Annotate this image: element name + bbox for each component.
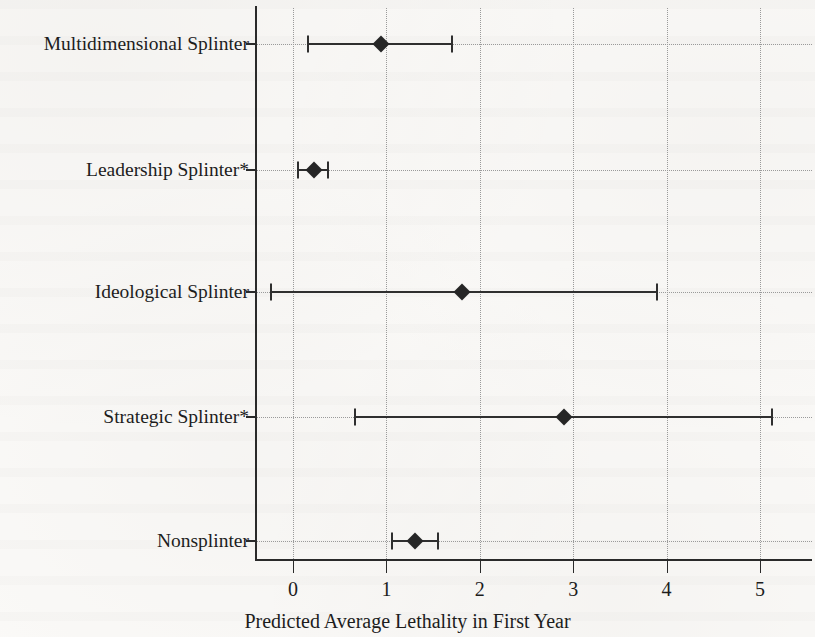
category-label-4: Nonsplinter xyxy=(157,531,249,551)
dot-whisker-plot xyxy=(0,0,815,637)
category-label-0: Multidimensional Splinter xyxy=(44,34,249,54)
confidence-interval-cap-high-3 xyxy=(771,409,773,426)
category-label-3: Strategic Splinter* xyxy=(103,407,249,427)
x-tick-mark-4 xyxy=(667,561,668,573)
confidence-interval-cap-low-2 xyxy=(270,284,272,301)
gridline-vertical-4 xyxy=(667,8,668,559)
point-marker-3 xyxy=(555,409,572,426)
x-tick-label-1: 1 xyxy=(381,579,391,599)
x-tick-label-5: 5 xyxy=(755,579,765,599)
gridline-vertical-2 xyxy=(480,8,481,559)
confidence-interval-cap-high-1 xyxy=(327,162,329,179)
confidence-interval-cap-high-0 xyxy=(451,36,453,53)
category-label-1: Leadership Splinter* xyxy=(86,160,249,180)
gridline-horizontal-4 xyxy=(255,541,812,542)
x-tick-mark-0 xyxy=(293,561,294,573)
gridline-vertical-0 xyxy=(293,8,294,559)
point-marker-1 xyxy=(305,162,322,179)
category-label-2: Ideological Splinter xyxy=(95,282,249,302)
x-tick-label-2: 2 xyxy=(475,579,485,599)
x-tick-label-3: 3 xyxy=(568,579,578,599)
x-tick-label-0: 0 xyxy=(288,579,298,599)
confidence-interval-cap-low-4 xyxy=(391,533,393,550)
confidence-interval-cap-high-2 xyxy=(656,284,658,301)
confidence-interval-cap-low-0 xyxy=(307,36,309,53)
x-tick-mark-5 xyxy=(760,561,761,573)
point-marker-4 xyxy=(407,533,424,550)
point-marker-2 xyxy=(454,284,471,301)
gridline-vertical-3 xyxy=(573,8,574,559)
x-tick-mark-1 xyxy=(386,561,387,573)
confidence-interval-cap-low-1 xyxy=(297,162,299,179)
x-tick-label-4: 4 xyxy=(662,579,672,599)
confidence-interval-cap-high-4 xyxy=(437,533,439,550)
gridline-horizontal-1 xyxy=(255,170,812,171)
y-axis-line xyxy=(255,6,257,559)
x-tick-mark-2 xyxy=(480,561,481,573)
x-axis-line xyxy=(255,559,812,561)
x-tick-mark-3 xyxy=(573,561,574,573)
gridline-vertical-5 xyxy=(760,8,761,559)
gridline-vertical-1 xyxy=(386,8,387,559)
x-axis-title: Predicted Average Lethality in First Yea… xyxy=(0,611,815,631)
confidence-interval-cap-low-3 xyxy=(354,409,356,426)
chart-page: Multidimensional Splinter Leadership Spl… xyxy=(0,0,815,637)
